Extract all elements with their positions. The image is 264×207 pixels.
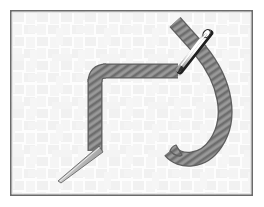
sewing-illustration-canvas [0, 0, 264, 207]
illustration-stage: Threaded needle and thread on woven fabr… [0, 0, 264, 207]
